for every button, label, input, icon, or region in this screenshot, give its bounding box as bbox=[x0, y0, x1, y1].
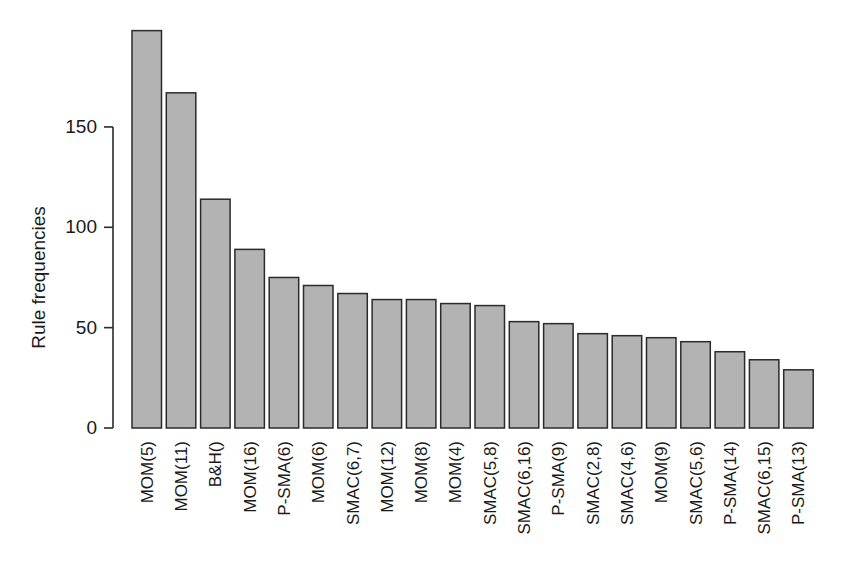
x-axis-category-label: SMAC(6,7) bbox=[344, 441, 363, 525]
bar bbox=[647, 338, 677, 428]
bar bbox=[749, 360, 779, 428]
x-axis-category-label: SMAC(5,8) bbox=[481, 441, 500, 525]
y-axis-tick-label: 0 bbox=[86, 417, 97, 438]
bar bbox=[784, 370, 814, 428]
y-axis-tick-label: 100 bbox=[65, 216, 97, 237]
bar bbox=[338, 294, 368, 428]
bar bbox=[269, 277, 299, 428]
bar bbox=[681, 342, 711, 428]
bar bbox=[406, 300, 436, 428]
x-axis-category-label: P-SMA(9) bbox=[549, 441, 568, 516]
bar bbox=[166, 93, 196, 428]
bar bbox=[372, 300, 402, 428]
y-axis-title-text: Rule frequencies bbox=[28, 206, 49, 349]
bar bbox=[509, 322, 539, 428]
x-axis-category-label: P-SMA(14) bbox=[721, 441, 740, 525]
bar bbox=[235, 249, 265, 428]
x-axis-category-label: MOM(5) bbox=[138, 441, 157, 503]
bar bbox=[612, 336, 642, 428]
chart-canvas: 050100150 MOM(5)MOM(11)B&H()MOM(16)P-SMA… bbox=[0, 0, 842, 575]
x-axis-category-label: MOM(4) bbox=[446, 441, 465, 503]
x-axis-category-label: B&H() bbox=[206, 441, 225, 487]
bar bbox=[304, 286, 334, 428]
x-axis-category-label: SMAC(6,15) bbox=[755, 441, 774, 535]
x-axis-category-label: MOM(8) bbox=[412, 441, 431, 503]
bar bbox=[544, 324, 574, 428]
x-axis-category-label: MOM(9) bbox=[652, 441, 671, 503]
x-axis-category-label: SMAC(5,6) bbox=[687, 441, 706, 525]
x-axis-category-label: SMAC(6,16) bbox=[515, 441, 534, 535]
rule-frequencies-bar-chart: 050100150 MOM(5)MOM(11)B&H()MOM(16)P-SMA… bbox=[0, 0, 842, 575]
bar bbox=[578, 334, 608, 428]
y-axis-tick-label: 50 bbox=[76, 317, 97, 338]
x-axis-category-label: P-SMA(6) bbox=[275, 441, 294, 516]
bar bbox=[475, 306, 505, 428]
x-axis-category-label: MOM(12) bbox=[378, 441, 397, 513]
x-axis-category-label: SMAC(4,6) bbox=[618, 441, 637, 525]
bar bbox=[441, 304, 471, 428]
x-axis-category-label: MOM(16) bbox=[241, 441, 260, 513]
x-axis-category-label: P-SMA(13) bbox=[789, 441, 808, 525]
y-axis-tick-label: 150 bbox=[65, 116, 97, 137]
bar bbox=[715, 352, 745, 428]
bar bbox=[201, 199, 231, 428]
bar bbox=[132, 31, 162, 428]
x-axis-category-label: MOM(6) bbox=[309, 441, 328, 503]
y-axis-title: Rule frequencies bbox=[28, 206, 49, 349]
x-axis-category-label: MOM(11) bbox=[172, 441, 191, 512]
x-axis-category-label: SMAC(2,8) bbox=[584, 441, 603, 525]
